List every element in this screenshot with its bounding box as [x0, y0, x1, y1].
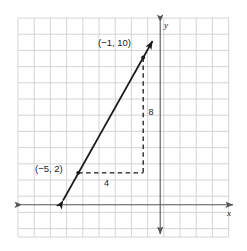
point-marker-lower — [76, 171, 80, 175]
x-axis-label: x — [226, 208, 231, 218]
graph-canvas: (−1, 10) (−5, 2) 8 4 y x — [0, 0, 247, 251]
graphed-line — [63, 41, 153, 201]
coordinate-plane-figure: (−1, 10) (−5, 2) 8 4 y x — [0, 0, 247, 251]
rise-label: 8 — [149, 107, 154, 117]
grid-lines — [18, 18, 229, 237]
point-label-upper: (−1, 10) — [98, 37, 131, 48]
y-axis-label: y — [163, 20, 168, 30]
point-label-lower: (−5, 2) — [35, 163, 63, 174]
run-label: 4 — [104, 178, 109, 188]
point-marker-upper — [141, 56, 145, 60]
